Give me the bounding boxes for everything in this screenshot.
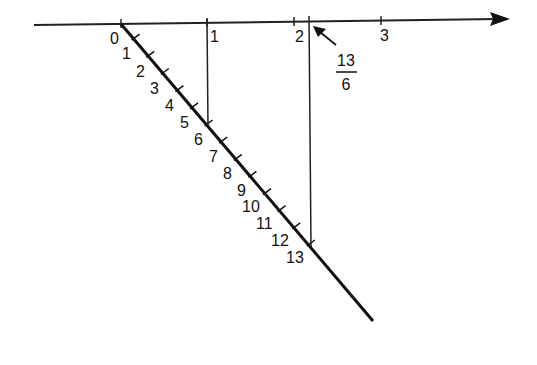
aux-label-12: 12 (271, 232, 289, 249)
projection-6-to-1 (207, 19, 208, 126)
fraction-annotation: 13 6 (313, 26, 357, 93)
axis-label-0: 0 (110, 30, 119, 47)
aux-label-10: 10 (242, 198, 260, 215)
axis-label-2: 2 (295, 28, 304, 45)
auxiliary-line: 1 2 3 4 5 6 7 8 9 10 11 12 13 (121, 24, 373, 321)
aux-label-8: 8 (223, 165, 232, 182)
aux-label-1: 1 (122, 45, 131, 62)
aux-label-2: 2 (136, 63, 145, 80)
aux-label-5: 5 (180, 114, 189, 131)
axis-label-1: 1 (210, 28, 219, 45)
auxiliary-ticks (132, 34, 315, 246)
aux-label-11: 11 (256, 215, 273, 232)
number-line-construction-diagram: 0 1 2 3 1 2 3 4 5 6 7 8 9 (0, 0, 537, 365)
aux-label-9: 9 (237, 182, 246, 199)
aux-label-7: 7 (209, 148, 218, 165)
projection-13-to-13-6 (309, 16, 311, 247)
axis-arrow-icon (490, 12, 510, 26)
fraction-denominator: 6 (342, 76, 351, 93)
fraction-numerator: 13 (337, 52, 355, 69)
aux-label-4: 4 (165, 97, 174, 114)
aux-label-3: 3 (150, 80, 159, 97)
auxiliary-line-segment (121, 24, 373, 321)
aux-label-13: 13 (286, 249, 304, 266)
number-line-axis (34, 19, 498, 25)
annotation-arrow-shaft (320, 32, 336, 45)
aux-label-6: 6 (194, 131, 203, 148)
number-line: 0 1 2 3 (34, 12, 510, 47)
axis-label-3: 3 (380, 27, 389, 44)
